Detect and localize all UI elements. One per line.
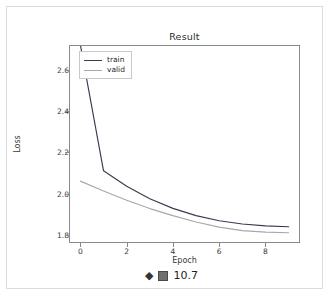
legend-label-train: train bbox=[107, 55, 124, 65]
y-tick-mark bbox=[65, 194, 69, 195]
chart-title: Result bbox=[69, 31, 300, 42]
x-tick-mark bbox=[80, 243, 81, 247]
x-tick-label: 2 bbox=[117, 247, 137, 256]
legend-swatch-valid bbox=[84, 70, 102, 71]
y-axis-ticks: 1.82.02.22.42.6 bbox=[21, 19, 69, 264]
chart-legend: train valid bbox=[79, 51, 132, 79]
x-tick-mark bbox=[219, 243, 220, 247]
x-tick-mark bbox=[127, 243, 128, 247]
x-tick-label: 8 bbox=[255, 247, 275, 256]
y-tick-mark bbox=[65, 111, 69, 112]
diamond-icon: ◆ bbox=[145, 270, 153, 281]
screenshot-root: Result Loss 1.82.02.22.42.6 train valid bbox=[0, 0, 331, 296]
legend-swatch-train bbox=[84, 60, 102, 61]
caption-number: 10.7 bbox=[173, 269, 198, 282]
legend-item-valid: valid bbox=[84, 65, 125, 75]
y-tick-mark bbox=[65, 235, 69, 236]
page-border: Result Loss 1.82.02.22.42.6 train valid bbox=[6, 6, 323, 289]
plot-area: train valid bbox=[69, 45, 300, 243]
figure-caption: ◆ 10.7 bbox=[13, 269, 330, 282]
chart-figure: Result Loss 1.82.02.22.42.6 train valid bbox=[21, 19, 321, 264]
tofu-box-icon bbox=[158, 271, 168, 281]
legend-label-valid: valid bbox=[107, 65, 125, 75]
legend-item-train: train bbox=[84, 55, 125, 65]
x-tick-label: 4 bbox=[163, 247, 183, 256]
y-tick-mark bbox=[65, 152, 69, 153]
x-tick-mark bbox=[265, 243, 266, 247]
x-tick-label: 0 bbox=[70, 247, 90, 256]
x-tick-mark bbox=[173, 243, 174, 247]
x-tick-label: 6 bbox=[209, 247, 229, 256]
x-axis-label: Epoch bbox=[69, 256, 300, 265]
y-tick-mark bbox=[65, 70, 69, 71]
